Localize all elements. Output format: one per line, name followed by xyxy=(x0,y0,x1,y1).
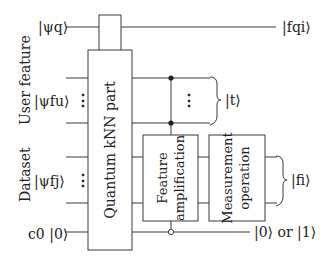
measure-label-2: operation xyxy=(237,146,252,210)
group-label-dataset: Dataset xyxy=(17,147,33,202)
label-psi-fu: |ψfu⟩ xyxy=(34,93,69,110)
feature-amplification-box xyxy=(143,135,198,221)
feature-amp-label-2: amplification xyxy=(172,134,187,221)
ellipsis-dataset: ⋮ xyxy=(75,171,91,190)
knn-query-box xyxy=(99,15,121,51)
group-label-user-feature: User feature xyxy=(17,35,33,125)
label-f-qi: |fqi⟩ xyxy=(282,19,311,36)
brace-fi xyxy=(276,156,287,206)
ellipsis-user-feature: ⋮ xyxy=(75,91,91,110)
label-0-or-1: |0⟩ or |1⟩ xyxy=(254,224,316,241)
knn-label: Quantum kNN part xyxy=(102,81,118,219)
label-t: |t⟩ xyxy=(225,92,241,109)
measure-label-1: Measurement xyxy=(220,132,235,224)
label-psi-q: |ψq⟩ xyxy=(38,19,68,36)
label-fi: |fi⟩ xyxy=(291,172,311,189)
open-control-dot xyxy=(168,229,173,234)
label-psi-fj: |ψfj⟩ xyxy=(34,173,65,190)
ellipsis-control: ⋮ xyxy=(181,91,197,110)
control-dot-bottom xyxy=(168,120,173,125)
brace-t xyxy=(210,77,221,125)
control-dot-top xyxy=(168,75,173,80)
label-c0: c0 |0⟩ xyxy=(28,226,68,243)
quantum-circuit-diagram: |ψq⟩ |ψfu⟩ |ψfj⟩ c0 |0⟩ ⋮ ⋮ ⋮ User featu… xyxy=(0,0,326,261)
feature-amp-label-1: Feature xyxy=(155,152,170,204)
